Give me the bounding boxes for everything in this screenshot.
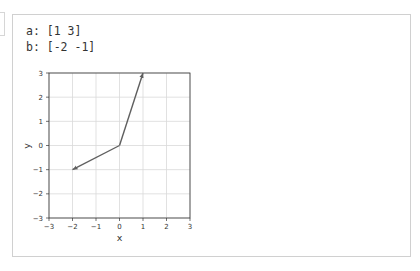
x-axis-label: x (117, 232, 123, 243)
y-tick-label: 1 (39, 118, 43, 126)
x-tick-label: −3 (44, 223, 54, 231)
axis-ticks: −3−3−2−2−1−100112233 (33, 70, 193, 232)
y-tick-label: −1 (33, 166, 43, 174)
y-tick-label: 2 (39, 94, 43, 102)
x-tick-label: 0 (117, 223, 121, 231)
x-tick-label: −1 (91, 223, 101, 231)
y-axis-label: y (21, 143, 32, 149)
vector-plot: −3−3−2−2−1−100112233 x y (0, 0, 420, 271)
x-tick-label: 2 (164, 223, 168, 231)
vector-a (120, 73, 144, 146)
x-tick-label: −2 (67, 223, 77, 231)
y-tick-label: 0 (39, 142, 43, 150)
x-tick-label: 1 (141, 223, 145, 231)
x-tick-label: 3 (188, 223, 192, 231)
y-tick-label: 3 (39, 70, 43, 78)
y-tick-label: −3 (33, 215, 43, 223)
y-tick-label: −2 (33, 190, 43, 198)
